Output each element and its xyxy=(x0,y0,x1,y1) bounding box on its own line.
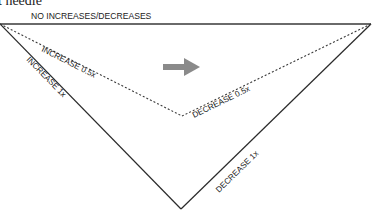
line-decrease-1x xyxy=(181,24,371,209)
label-no-change: NO INCREASES/DECREASES xyxy=(31,11,152,21)
arrow-right-icon xyxy=(163,58,200,76)
label-decrease-half: DECREASE 0.5x xyxy=(191,84,251,120)
label-decrease-full: DECREASE 1x xyxy=(214,149,260,195)
triangle-diagram: NO INCREASES/DECREASES INCREASE 0.5x INC… xyxy=(0,0,374,221)
line-increase-1x xyxy=(0,24,181,209)
diagram-canvas: t needle NO INCREASES/DECREASES INCREASE… xyxy=(0,0,374,221)
